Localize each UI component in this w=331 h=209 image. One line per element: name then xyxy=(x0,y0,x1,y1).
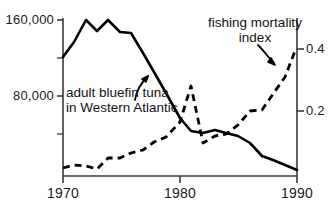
x-axis-label-1970: 1970 xyxy=(37,185,89,201)
y-axis-right-label-0.4: 0.4 xyxy=(306,41,331,56)
y-axis-right-label-0.2: 0.2 xyxy=(306,103,331,118)
y-axis-left-label-160000: 160,000 xyxy=(0,12,54,27)
tuna-annotation: adult bluefin tuna in Western Atlantic xyxy=(66,86,178,115)
mortality-annotation-line1: fishing mortality xyxy=(203,16,307,31)
tuna-annotation-line2: in Western Atlantic xyxy=(66,101,178,116)
mortality-annotation: fishing mortality index xyxy=(203,16,307,45)
tuna-annotation-line1: adult bluefin tuna xyxy=(66,86,178,101)
y-axis-left-label-80000: 80,000 xyxy=(0,88,54,103)
chart-figure: 160,000 80,000 0.4 0.2 1970 1980 1990 ad… xyxy=(0,0,331,209)
x-axis-label-1980: 1980 xyxy=(154,185,206,201)
mortality-annotation-line2: index xyxy=(203,31,307,46)
x-axis-label-1990: 1990 xyxy=(271,185,323,201)
mortality-annotation-arrow-head xyxy=(268,58,275,65)
